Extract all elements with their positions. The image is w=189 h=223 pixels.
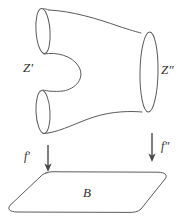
label-base: B <box>83 186 91 199</box>
label-right-map: f″ <box>161 140 169 152</box>
label-left-boundary: Z′ <box>23 61 33 74</box>
boundary-circle-bottom-left <box>35 90 51 134</box>
left-projection-arrow <box>44 145 51 172</box>
boundary-circle-right <box>139 32 158 112</box>
surface-outline-group <box>34 8 158 134</box>
projection-arrows-group <box>44 133 155 172</box>
surface-bottom-edge <box>48 112 142 133</box>
diagram-svg <box>0 0 189 223</box>
surface-inner-notch <box>43 53 81 91</box>
label-left-map: f′ <box>24 150 30 162</box>
surface-top-edge <box>49 10 141 33</box>
label-right-boundary: Z″ <box>161 63 174 76</box>
right-projection-arrow <box>148 133 155 162</box>
figure-canvas: Z′ Z″ f′ f″ B <box>0 0 189 223</box>
boundary-circle-top-left <box>34 8 51 54</box>
